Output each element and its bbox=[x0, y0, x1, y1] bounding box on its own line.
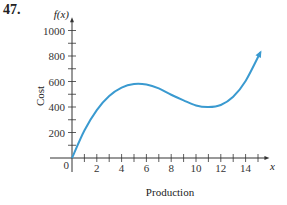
y-tick-label: 400 bbox=[49, 101, 66, 113]
y-tick-label: 1000 bbox=[43, 25, 66, 37]
x-axis-symbol: x bbox=[269, 160, 275, 172]
x-tick-label: 4 bbox=[119, 162, 125, 174]
y-tick-label: 600 bbox=[49, 76, 66, 88]
ticks bbox=[68, 31, 258, 163]
origin-label: 0 bbox=[64, 159, 70, 171]
series-line bbox=[72, 52, 260, 158]
x-tick-label: 6 bbox=[144, 162, 150, 174]
y-axis-arrow bbox=[70, 17, 74, 22]
x-axis-arrow bbox=[264, 156, 269, 160]
y-axis-symbol: f(x) bbox=[54, 8, 70, 21]
x-tick-label: 14 bbox=[240, 162, 252, 174]
y-tick-label: 200 bbox=[49, 127, 66, 139]
y-tick-label: 800 bbox=[49, 50, 66, 62]
x-tick-label: 2 bbox=[94, 162, 100, 174]
x-tick-label: 10 bbox=[191, 162, 203, 174]
chart: 24681012142004006008001000 Production Co… bbox=[0, 0, 287, 205]
x-axis-title: Production bbox=[146, 186, 195, 198]
y-axis-title: Cost bbox=[34, 86, 46, 106]
x-tick-label: 8 bbox=[168, 162, 174, 174]
series bbox=[72, 50, 261, 158]
x-tick-label: 12 bbox=[215, 162, 226, 174]
